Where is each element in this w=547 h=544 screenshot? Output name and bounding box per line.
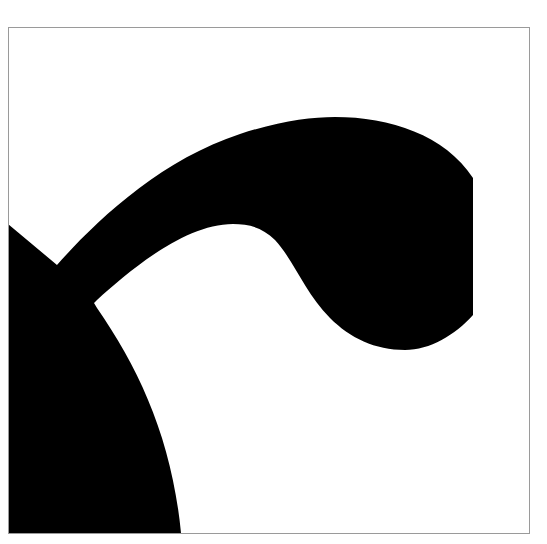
glyph-canvas [0,0,547,544]
letterform-figure [0,0,547,544]
